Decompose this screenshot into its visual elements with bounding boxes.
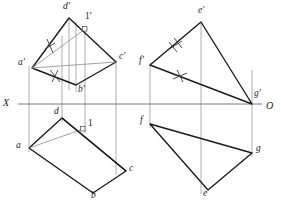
- diagram-canvas: X O a' d' c' b' 1' a d c b 1 e' f' g' f …: [0, 0, 281, 203]
- point-1prime-marker: [83, 27, 88, 32]
- front-view-line-a-to-1prime: [32, 29, 85, 68]
- point-label-1-prime: 1': [85, 12, 91, 22]
- projection-drawing: [0, 0, 281, 203]
- point-label-1: 1: [88, 119, 93, 129]
- vertex-label-a: a: [16, 141, 21, 151]
- vertex-label-d-prime: d': [63, 2, 70, 12]
- axis-label-o: O: [266, 101, 273, 111]
- vertex-label-e: e: [203, 189, 207, 199]
- vertex-label-b-prime: b': [78, 85, 85, 95]
- vertex-label-a-prime: a': [18, 58, 25, 68]
- point-1-marker: [81, 127, 86, 132]
- vertex-label-e-prime: e': [198, 6, 204, 16]
- vertex-label-g-prime: g': [254, 89, 261, 99]
- front-view-diagonal-a1c: [32, 62, 116, 68]
- vertex-label-g: g: [256, 144, 261, 154]
- vertex-label-f-prime: f': [139, 56, 144, 66]
- vertex-label-f: f: [140, 116, 143, 126]
- vertex-label-d: d: [54, 107, 59, 117]
- vertex-label-c-prime: c': [119, 52, 125, 62]
- top-view-line-d-to-c: [62, 118, 126, 171]
- top-view-diagonal-a-to-1: [29, 129, 83, 148]
- axis-label-x: X: [3, 98, 9, 108]
- front-view-abcd-outline: [32, 18, 116, 85]
- top-view-abcd-outline: [29, 118, 126, 193]
- vertex-label-b: b: [91, 191, 96, 201]
- projector-lines: [29, 20, 252, 194]
- vertex-label-c: c: [129, 164, 133, 174]
